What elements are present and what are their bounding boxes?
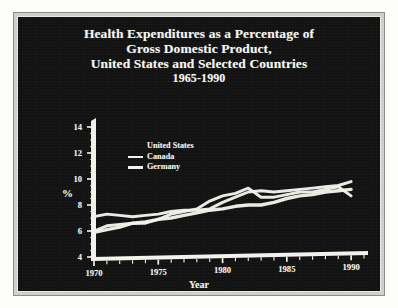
- title-line-1: Health Expenditures as a Percentage of: [18, 26, 380, 41]
- x-tick-label: 1990: [334, 262, 368, 272]
- y-tick-label: 4: [66, 252, 82, 262]
- title-line-3: United States and Selected Countries: [18, 56, 380, 71]
- y-tick-label: 6: [66, 226, 82, 236]
- y-tick-label: 8: [66, 200, 82, 210]
- x-tick-label: 1980: [206, 265, 240, 275]
- x-tick-label: 1985: [270, 264, 304, 274]
- slide-card: Health Expenditures as a Percentage of G…: [17, 16, 381, 292]
- title-line-2: Gross Domestic Product,: [18, 41, 380, 56]
- legend-swatch-icon: [128, 145, 143, 147]
- chart-screenshot: Health Expenditures as a Percentage of G…: [0, 0, 398, 308]
- legend-item-canada: Canada: [128, 152, 194, 163]
- y-tick-label: 10: [66, 174, 82, 184]
- chart-title: Health Expenditures as a Percentage of G…: [18, 26, 380, 86]
- y-axis-spine: [91, 118, 96, 257]
- legend-item-germany: Germany: [128, 162, 194, 173]
- x-axis-spine: [91, 251, 368, 261]
- legend-swatch-icon: [128, 156, 143, 158]
- chart-legend: United StatesCanadaGermany: [128, 141, 194, 173]
- x-tick-label: 1970: [77, 268, 111, 278]
- slide-frame: Health Expenditures as a Percentage of G…: [13, 12, 385, 296]
- legend-label: United States: [147, 141, 194, 152]
- series-line-united-states: [94, 182, 351, 217]
- legend-label: Canada: [147, 152, 174, 163]
- y-tick-label: 14: [66, 122, 82, 132]
- title-line-4: 1965-1990: [18, 71, 380, 85]
- legend-item-united-states: United States: [128, 141, 194, 152]
- x-tick-label: 1975: [141, 267, 175, 277]
- legend-swatch-icon: [128, 166, 143, 169]
- x-axis-label: Year: [18, 279, 380, 290]
- y-axis-label: %: [62, 187, 73, 199]
- legend-label: Germany: [147, 162, 180, 173]
- y-tick-label: 12: [66, 148, 82, 158]
